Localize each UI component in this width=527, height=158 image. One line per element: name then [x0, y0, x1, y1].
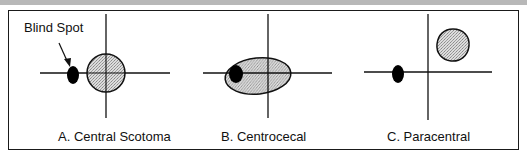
caption-b: B. Centrocecal: [221, 129, 306, 144]
blind-spot: [67, 66, 79, 84]
panel-a-central-scotoma: Blind Spot A. Central Scotoma: [24, 14, 171, 144]
caption-a: A. Central Scotoma: [58, 129, 171, 144]
visual-field-diagram: Blind Spot A. Central Scotoma B. Centroc…: [0, 0, 527, 158]
blind-spot: [229, 65, 243, 83]
arrowhead-icon: [64, 58, 71, 67]
panel-c-paracentral: C. Paracentral: [364, 14, 492, 144]
paracentral-scotoma: [437, 29, 469, 61]
panel-b-centrocecal: B. Centrocecal: [203, 14, 332, 144]
caption-c: C. Paracentral: [387, 129, 470, 144]
blind-spot-label: Blind Spot: [24, 20, 84, 35]
blind-spot: [392, 65, 404, 83]
